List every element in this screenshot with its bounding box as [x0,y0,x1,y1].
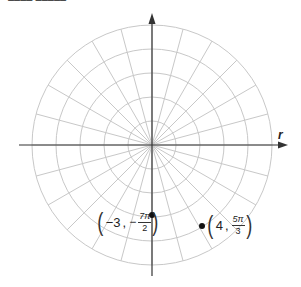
comma: , [225,218,229,233]
polar-grid [0,0,301,287]
point-2-theta: 5π 3 [232,215,245,236]
grid-spoke [152,114,268,145]
point-1-theta-denominator: 2 [142,223,147,233]
comma: , [123,215,127,230]
grid-spoke [152,145,212,249]
right-paren: ) [152,209,158,235]
left-paren: ( [207,212,213,238]
point-2-theta-denominator: 3 [236,226,241,236]
grid-spoke [121,145,152,261]
point-2-r: 4 [216,218,223,233]
grid-spoke [152,145,268,176]
grid-spoke [152,145,256,205]
grid-spoke [67,60,152,145]
grid-spoke [48,145,152,205]
polar-diagram: –––– ––––– r ( −3 , − 7π 2 ) ( 4 , 5π 3 … [0,0,301,287]
point-2-dot [199,223,205,229]
right-paren: ) [246,212,252,238]
grid-spoke [36,145,152,176]
point-1-theta: 7π 2 [138,212,151,233]
grid-spoke [36,114,152,145]
horizontal-axis-arrow-icon [278,142,288,149]
grid-spoke [152,41,212,145]
r-axis-label: r [278,128,283,142]
left-paren: ( [97,209,103,235]
grid-spoke [152,29,183,145]
grid-spoke [152,145,183,261]
grid-spoke [48,85,152,145]
point-1-r: −3 [106,215,121,230]
clipped-caption: –––– ––––– [8,0,66,5]
point-2-label: ( 4 , 5π 3 ) [206,212,253,238]
point-2-theta-numerator: 5π [232,215,245,226]
grid-spoke [152,85,256,145]
point-1-theta-sign: − [129,215,136,229]
point-1-label: ( −3 , − 7π 2 ) [96,209,160,235]
vertical-axis-arrow-icon [149,13,156,24]
point-1-theta-numerator: 7π [138,212,151,223]
grid-spoke [152,60,237,145]
grid-spoke [121,29,152,145]
grid-spoke [92,41,152,145]
